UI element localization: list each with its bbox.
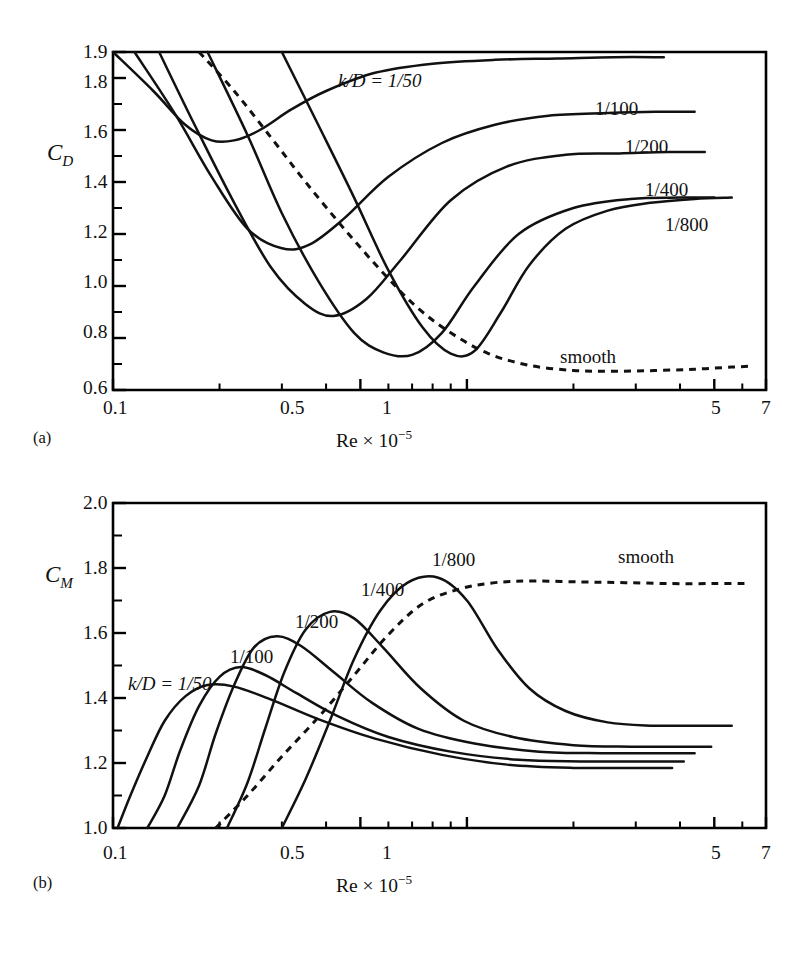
curve-label-b-smooth: smooth bbox=[618, 547, 674, 566]
x-tick-label-b-1: 1 bbox=[382, 843, 392, 863]
x-tick-label-b-5: 5 bbox=[711, 843, 721, 863]
data-curve-k-d-1-50 bbox=[118, 684, 673, 828]
y-tick-label-a-0.6: 0.6 bbox=[83, 378, 107, 398]
y-tick-label-b-1.2: 1.2 bbox=[83, 753, 107, 773]
x-tick-label-b-0.5: 0.5 bbox=[280, 843, 304, 863]
y-tick-label-a-0.8: 0.8 bbox=[83, 322, 107, 342]
x-axis-title-b-exponent: −5 bbox=[398, 872, 412, 887]
y-tick-label-a-1.0: 1.0 bbox=[83, 272, 107, 292]
y-tick-label-b-1.4: 1.4 bbox=[83, 688, 107, 708]
chart-panel-b: CM 2.0 1.8 1.6 1.4 1.2 1.0 0.1 0.5 1 5 7… bbox=[0, 452, 810, 954]
curve-label-a-smooth: smooth bbox=[560, 347, 616, 366]
panel-letter-b: (b) bbox=[33, 875, 52, 892]
x-tick-label-a-0.1: 0.1 bbox=[103, 398, 127, 418]
y-tick-label-b-1.0: 1.0 bbox=[83, 818, 107, 838]
figure-root: CD 1.9 1.8 1.6 1.4 1.2 1.0 0.8 0.6 0.1 0… bbox=[0, 0, 810, 954]
y-axis-symbol-a: CD bbox=[47, 140, 73, 170]
curve-label-a-kd-1-50: k/D = 1/50 bbox=[338, 71, 422, 90]
x-axis-title-a-text: Re × 10 bbox=[336, 430, 398, 451]
x-tick-label-a-5: 5 bbox=[711, 398, 721, 418]
y-tick-label-a-1.4: 1.4 bbox=[83, 172, 107, 192]
curve-label-a-1-800: 1/800 bbox=[665, 215, 708, 234]
curve-label-a-1-100: 1/100 bbox=[595, 99, 638, 118]
panel-letter-a: (a) bbox=[33, 430, 51, 447]
curve-label-b-1-400: 1/400 bbox=[361, 580, 404, 599]
curve-label-b-1-100: 1/100 bbox=[230, 647, 273, 666]
x-tick-label-b-7: 7 bbox=[761, 843, 771, 863]
x-axis-title-b-text: Re × 10 bbox=[336, 875, 398, 896]
y-tick-label-a-1.6: 1.6 bbox=[83, 122, 107, 142]
chart-panel-a: CD 1.9 1.8 1.6 1.4 1.2 1.0 0.8 0.6 0.1 0… bbox=[0, 0, 810, 470]
x-axis-title-b: Re × 10−5 bbox=[336, 873, 412, 895]
curve-label-a-1-200: 1/200 bbox=[625, 137, 668, 156]
x-axis-title-a: Re × 10−5 bbox=[336, 428, 412, 450]
y-tick-label-a-1.8: 1.8 bbox=[83, 72, 107, 92]
curve-label-b-1-800: 1/800 bbox=[432, 550, 475, 569]
y-axis-symbol-b: CM bbox=[45, 562, 73, 592]
curve-label-b-kd-1-50: k/D = 1/50 bbox=[128, 674, 212, 693]
y-tick-label-a-1.9: 1.9 bbox=[83, 42, 107, 62]
x-tick-label-b-0.1: 0.1 bbox=[103, 843, 127, 863]
y-tick-label-a-1.2: 1.2 bbox=[83, 222, 107, 242]
x-tick-label-a-0.5: 0.5 bbox=[280, 398, 304, 418]
data-curve-1-200 bbox=[159, 52, 705, 316]
y-tick-label-b-1.8: 1.8 bbox=[83, 558, 107, 578]
curve-label-a-1-400: 1/400 bbox=[645, 180, 688, 199]
x-tick-label-a-1: 1 bbox=[382, 398, 392, 418]
x-axis-title-a-exponent: −5 bbox=[398, 427, 412, 442]
y-tick-label-b-2.0: 2.0 bbox=[83, 493, 107, 513]
x-tick-label-a-7: 7 bbox=[761, 398, 771, 418]
y-tick-label-b-1.6: 1.6 bbox=[83, 623, 107, 643]
curve-label-b-1-200: 1/200 bbox=[295, 612, 338, 631]
